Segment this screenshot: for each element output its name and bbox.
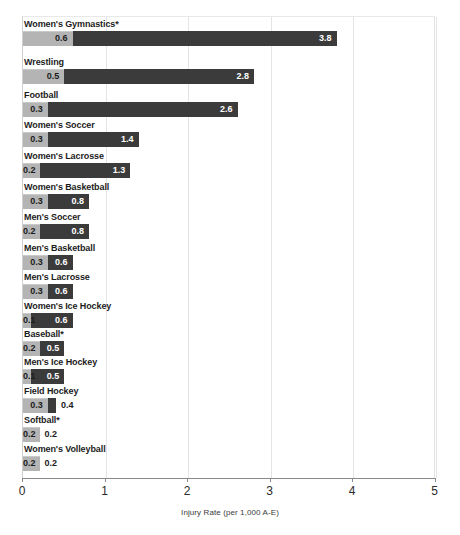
- bar-value-light: 0.2: [23, 456, 35, 471]
- category-label: Baseball*: [24, 329, 64, 340]
- category-label: Men's Ice Hockey: [24, 357, 97, 368]
- tick-mark-4: [352, 478, 353, 482]
- gridline-5: [436, 17, 437, 478]
- gridline-3: [271, 17, 272, 478]
- tick-mark-0: [22, 478, 23, 482]
- bar-value-light: 0.2: [23, 224, 35, 239]
- bar-value-light: 0.6: [23, 31, 68, 46]
- bar-value-dark: 1.3: [23, 163, 125, 178]
- category-label: Women's Basketball: [24, 182, 109, 193]
- bar-value-light: 0.3: [23, 255, 43, 270]
- bar-value-light: 0.3: [23, 398, 43, 413]
- tick-label-3: 3: [255, 484, 285, 498]
- bar-value-light: 0.3: [23, 102, 43, 117]
- category-label: Football: [24, 90, 58, 101]
- bar-value-light: 0.5: [23, 69, 59, 84]
- x-axis-line: [22, 478, 436, 479]
- bar-value-light: 0.2: [23, 341, 35, 356]
- category-label: Softball*: [24, 415, 60, 426]
- category-label: Women's Gymnastics*: [24, 19, 119, 30]
- tick-mark-3: [270, 478, 271, 482]
- category-label: Women's Lacrosse: [24, 151, 104, 162]
- bar-value-dark: 0.2: [45, 456, 58, 471]
- gridline-1: [106, 17, 107, 478]
- category-label: Women's Ice Hockey: [24, 301, 111, 312]
- category-label: Men's Lacrosse: [24, 272, 90, 283]
- bar-value-light: 0.1: [23, 313, 26, 328]
- tick-mark-1: [105, 478, 106, 482]
- tick-mark-2: [187, 478, 188, 482]
- category-label: Men's Basketball: [24, 243, 95, 254]
- tick-label-2: 2: [172, 484, 202, 498]
- bar-value-dark: 0.2: [45, 427, 58, 442]
- bar-value-light: 0.3: [23, 194, 43, 209]
- bar-value-light: 0.2: [23, 163, 35, 178]
- bar-value-dark: 2.6: [23, 102, 233, 117]
- injury-rate-bar-chart: Women's Gymnastics*3.80.6Wrestling2.80.5…: [0, 0, 460, 535]
- tick-label-5: 5: [420, 484, 450, 498]
- tick-label-4: 4: [337, 484, 367, 498]
- tick-mark-5: [435, 478, 436, 482]
- bar-value-dark: 3.8: [23, 31, 332, 46]
- bar-value-light: 0.2: [23, 427, 35, 442]
- bar-value-light: 0.1: [23, 369, 26, 384]
- bar-value-light: 0.3: [23, 132, 43, 147]
- bar-value-light: 0.3: [23, 284, 43, 299]
- tick-label-0: 0: [7, 484, 37, 498]
- x-axis-title: Injury Rate (per 1,000 A-E): [0, 508, 460, 517]
- gridline-2: [188, 17, 189, 478]
- category-label: Women's Volleyball: [24, 444, 106, 455]
- plot-area: Women's Gymnastics*3.80.6Wrestling2.80.5…: [22, 16, 435, 478]
- category-label: Wrestling: [24, 57, 64, 68]
- category-label: Field Hockey: [24, 386, 78, 397]
- bar-value-dark: 0.4: [61, 398, 74, 413]
- gridline-4: [353, 17, 354, 478]
- tick-label-1: 1: [90, 484, 120, 498]
- category-label: Women's Soccer: [24, 120, 95, 131]
- category-label: Men's Soccer: [24, 212, 80, 223]
